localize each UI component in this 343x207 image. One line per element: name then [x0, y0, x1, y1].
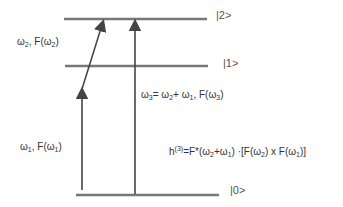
omega1-label: ω1, F(ω1) — [20, 141, 62, 153]
level-0-label: |0> — [230, 184, 245, 196]
level-2-label: |2> — [216, 9, 231, 21]
energy-diagram — [0, 0, 343, 207]
arrow-omega2 — [82, 25, 102, 89]
omega2-label: ω2, F(ω2) — [17, 36, 59, 48]
omega3-label: ω3= ω2+ ω1, F(ω3) — [141, 89, 223, 101]
h3-formula: h(3)=F*(ω2+ω1) ·[F(ω2) x F(ω1)] — [169, 145, 306, 158]
level-1-label: |1> — [223, 57, 238, 69]
